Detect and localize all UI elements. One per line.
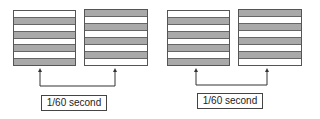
time-label-2: 1/60 second — [197, 93, 263, 109]
bracket-arrow-1 — [40, 72, 115, 86]
bracket-arrow-2 — [196, 72, 267, 85]
arrowhead-icon — [194, 68, 198, 72]
arrowhead-icon — [38, 68, 42, 72]
arrowhead-icon — [113, 68, 117, 72]
arrowhead-icon — [265, 68, 269, 72]
time-label-1: 1/60 second — [41, 95, 107, 111]
